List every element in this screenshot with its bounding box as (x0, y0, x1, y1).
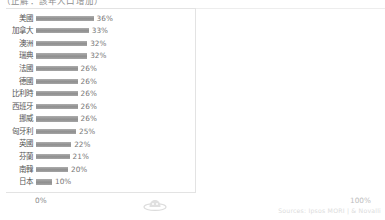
bar-track: 25% (36, 125, 196, 138)
bar-row: 日本10% (0, 176, 385, 189)
bar-category-label: 比利時 (0, 90, 36, 98)
bar-chart: （正解：該年人口增加） 美國36%加拿大33%澳洲32%瑞典32%法國26%德國… (0, 0, 385, 220)
bar (36, 116, 78, 121)
bar-track: 26% (36, 113, 196, 126)
bar-row: 澳洲32% (0, 37, 385, 50)
bar-category-label: 法國 (0, 65, 36, 73)
bar (36, 167, 68, 172)
bar-track: 10% (36, 176, 196, 189)
bar-value-label: 32% (90, 52, 106, 59)
bar-value-label: 10% (55, 178, 71, 185)
bar-track: 32% (36, 50, 196, 63)
bar-track: 32% (36, 37, 196, 50)
bar-track: 26% (36, 100, 196, 113)
bar-category-label: 日本 (0, 178, 36, 186)
bar-category-label: 德國 (0, 78, 36, 86)
bar-value-label: 26% (81, 103, 97, 110)
bar-value-label: 33% (92, 27, 108, 34)
bar-category-label: 瑞典 (0, 52, 36, 60)
chart-title: （正解：該年人口增加） (2, 0, 103, 6)
bar (36, 104, 78, 109)
bar-row: 美國36% (0, 12, 385, 25)
bar-value-label: 32% (90, 40, 106, 47)
bar-rows: 美國36%加拿大33%澳洲32%瑞典32%法國26%德國26%比利時26%西班牙… (0, 12, 385, 188)
bar-value-label: 26% (81, 115, 97, 122)
bar-row: 西班牙26% (0, 100, 385, 113)
bar-row: 比利時26% (0, 88, 385, 101)
bar (36, 129, 76, 134)
bar-row: 挪威26% (0, 113, 385, 126)
bar-track: 21% (36, 151, 196, 164)
bar-category-label: 美國 (0, 15, 36, 23)
bar-category-label: 南韓 (0, 166, 36, 174)
bar-value-label: 21% (73, 153, 89, 160)
bar-track: 33% (36, 25, 196, 38)
bar-value-label: 26% (81, 90, 97, 97)
bar-row: 瑞典32% (0, 50, 385, 63)
bar-track: 36% (36, 12, 196, 25)
bar (36, 66, 78, 71)
bar-row: 加拿大33% (0, 25, 385, 38)
bar-row: 法國26% (0, 62, 385, 75)
bar-category-label: 西班牙 (0, 103, 36, 111)
bar (36, 41, 87, 46)
bar-value-label: 26% (81, 78, 97, 85)
bar-value-label: 36% (97, 15, 113, 22)
bar (36, 16, 94, 21)
bar-category-label: 加拿大 (0, 27, 36, 35)
bar (36, 142, 71, 147)
bar-track: 22% (36, 138, 196, 151)
bar-track: 26% (36, 75, 196, 88)
bar (36, 179, 52, 184)
bar-row: 芬蘭21% (0, 151, 385, 164)
bar (36, 53, 87, 58)
bar (36, 79, 78, 84)
bar-row: 匈牙利25% (0, 125, 385, 138)
bar-row: 德國26% (0, 75, 385, 88)
bar-track: 26% (36, 88, 196, 101)
bar-category-label: 英國 (0, 140, 36, 148)
bar-row: 英國22% (0, 138, 385, 151)
bar (36, 91, 78, 96)
bar-row: 南韓20% (0, 163, 385, 176)
frame-top-rule (196, 8, 385, 9)
bar-value-label: 25% (79, 128, 95, 135)
bar (36, 28, 89, 33)
bar (36, 154, 70, 159)
x-axis-tick-max: 100% (350, 196, 371, 205)
bar-value-label: 20% (71, 166, 87, 173)
x-axis-tick-min: 0% (35, 196, 47, 205)
bar-value-label: 22% (74, 141, 90, 148)
bar-track: 20% (36, 163, 196, 176)
bar-category-label: 澳洲 (0, 40, 36, 48)
bar-category-label: 芬蘭 (0, 153, 36, 161)
logo-watermark-icon (142, 198, 168, 214)
bar-value-label: 26% (81, 65, 97, 72)
bar-track: 26% (36, 62, 196, 75)
bar-category-label: 挪威 (0, 115, 36, 123)
source-note: Sources: Ipsos MORI | & Novalli (278, 207, 381, 214)
bar-category-label: 匈牙利 (0, 128, 36, 136)
